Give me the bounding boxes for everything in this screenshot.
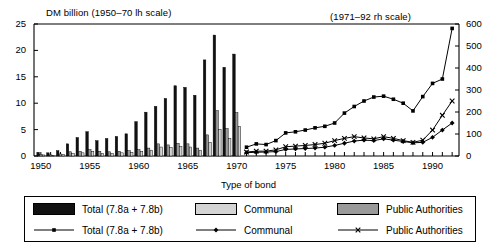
legend-swatch-communal-icon: [195, 203, 237, 215]
y-left-tick-label: 5: [2, 124, 26, 135]
legend-item-bar: Public Authorities: [337, 203, 463, 215]
legend-line-square-icon: [33, 224, 75, 236]
legend-line-cross-icon: [337, 224, 379, 236]
x-tick-label: 1980: [324, 160, 345, 171]
x-axis-ticks: 195019551960196519701975198019851990: [0, 160, 497, 174]
legend-line-diamond-icon: [195, 224, 237, 236]
legend-label: Public Authorities: [386, 204, 463, 215]
legend-label: Public Authorities: [386, 225, 463, 236]
legend-item-line: Public Authorities: [337, 224, 463, 236]
left-scale-title: DM billion (1950–70 lh scale): [46, 7, 171, 18]
y-right-tick-label: 300: [466, 84, 496, 95]
legend-swatch-total-icon: [33, 203, 75, 215]
y-left-tick-label: 10: [2, 97, 26, 108]
y-right-tick-label: 500: [466, 40, 496, 51]
y-right-tick-label: 400: [466, 62, 496, 73]
x-tick-label: 1985: [373, 160, 394, 171]
legend-label: Communal: [244, 225, 292, 236]
x-tick-label: 1990: [422, 160, 443, 171]
x-tick-label: 1970: [226, 160, 247, 171]
chart-legend: Total (7.8a + 7.8b)CommunalPublic Author…: [24, 196, 476, 242]
x-tick-label: 1960: [128, 160, 149, 171]
legend-label: Total (7.8a + 7.8b): [82, 225, 163, 236]
y-left-tick-label: 15: [2, 71, 26, 82]
x-tick-label: 1950: [30, 160, 51, 171]
y-left-tick-label: 25: [2, 18, 26, 29]
x-tick-label: 1965: [177, 160, 198, 171]
x-axis-title: Type of bond: [0, 179, 497, 190]
chart-figure: DM billion (1950–70 lh scale) (1971–92 r…: [0, 0, 497, 250]
legend-item-bar: Total (7.8a + 7.8b): [33, 203, 163, 215]
x-tick-label: 1955: [79, 160, 100, 171]
legend-item-line: Communal: [195, 224, 292, 236]
y-right-tick-label: 100: [466, 128, 496, 139]
x-tick-label: 1975: [275, 160, 296, 171]
y-left-tick-label: 20: [2, 44, 26, 55]
legend-label: Communal: [244, 204, 292, 215]
legend-row-lines: Total (7.8a + 7.8b)CommunalPublic Author…: [25, 220, 475, 240]
y-right-tick-label: 600: [466, 18, 496, 29]
plot-area: [34, 24, 459, 156]
legend-row-bars: Total (7.8a + 7.8b)CommunalPublic Author…: [25, 199, 475, 219]
y-right-tick-label: 200: [466, 106, 496, 117]
legend-item-bar: Communal: [195, 203, 292, 215]
legend-item-line: Total (7.8a + 7.8b): [33, 224, 163, 236]
legend-label: Total (7.8a + 7.8b): [82, 204, 163, 215]
right-scale-title: (1971–92 rh scale): [330, 11, 411, 22]
legend-swatch-public-icon: [337, 203, 379, 215]
